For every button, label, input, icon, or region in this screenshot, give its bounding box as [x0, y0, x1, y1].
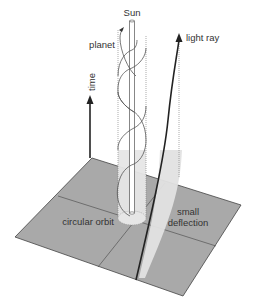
small-deflection-label-line2: deflection: [168, 217, 209, 228]
light-ray-label: light ray: [186, 32, 220, 43]
light-ray-arrowhead-icon: [176, 33, 183, 42]
time-axis-arrow: [87, 95, 94, 158]
planet-arrowhead-icon: [119, 27, 124, 32]
planet-label: planet: [89, 39, 115, 50]
time-arrowhead-icon: [87, 95, 94, 104]
sun-label: Sun: [124, 7, 141, 18]
circular-orbit-label: circular orbit: [62, 216, 114, 227]
small-deflection-label-line1: small: [177, 206, 199, 217]
time-label: time: [86, 73, 97, 91]
spacetime-diagram: Sun planet light ray time circular orbit…: [0, 0, 261, 305]
